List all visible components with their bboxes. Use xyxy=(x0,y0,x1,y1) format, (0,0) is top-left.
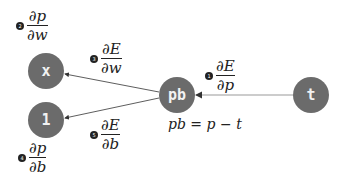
gradient-3: 3 ∂E ∂w xyxy=(90,41,122,76)
gradient-5: 5 ∂E ∂b xyxy=(90,117,120,152)
denominator: ∂p xyxy=(217,77,234,93)
numerator: ∂E xyxy=(216,58,235,74)
step-badge: 2 xyxy=(16,22,24,30)
fraction: ∂p ∂w xyxy=(27,8,48,43)
step-badge: 5 xyxy=(90,131,98,139)
numerator: ∂E xyxy=(102,41,121,57)
fraction: ∂E ∂b xyxy=(101,117,120,152)
denominator: ∂b xyxy=(29,159,46,175)
gradient-1: 1 ∂E ∂p xyxy=(205,58,235,93)
denominator: ∂w xyxy=(101,60,122,76)
gradient-4: 4 ∂p ∂b xyxy=(18,140,46,175)
denominator: ∂w xyxy=(27,27,48,43)
fraction: ∂E ∂p xyxy=(216,58,235,93)
node-one: 1 xyxy=(28,102,64,138)
denominator: ∂b xyxy=(102,136,119,152)
pb-equation: pb = p − t xyxy=(168,116,242,132)
numerator: ∂p xyxy=(29,8,46,24)
node-pb: pb xyxy=(159,77,195,113)
numerator: ∂p xyxy=(29,140,46,156)
gradient-2: 2 ∂p ∂w xyxy=(16,8,48,43)
step-badge: 1 xyxy=(205,72,213,80)
fraction: ∂p ∂b xyxy=(29,140,46,175)
numerator: ∂E xyxy=(101,117,120,133)
fraction: ∂E ∂w xyxy=(101,41,122,76)
node-t: t xyxy=(293,77,329,113)
node-x: x xyxy=(28,53,64,89)
step-badge: 4 xyxy=(18,154,26,162)
edge-pb-to-one xyxy=(65,98,159,118)
step-badge: 3 xyxy=(90,55,98,63)
